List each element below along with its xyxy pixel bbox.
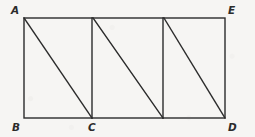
vertex-label-c: C bbox=[88, 122, 96, 133]
figure-canvas bbox=[0, 0, 255, 137]
geometry-figure: A E B C D bbox=[0, 0, 255, 137]
vertex-label-d: D bbox=[228, 122, 237, 133]
vertex-label-b: B bbox=[12, 122, 20, 133]
vertex-label-e: E bbox=[228, 5, 235, 16]
vertex-label-a: A bbox=[11, 5, 19, 16]
